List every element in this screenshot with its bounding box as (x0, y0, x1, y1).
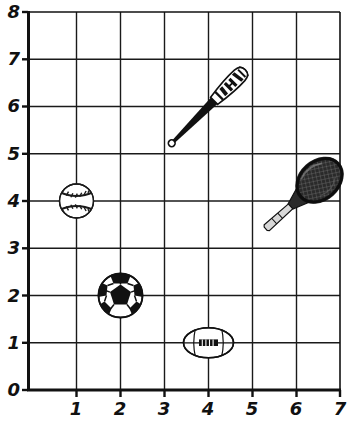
x-tick-label-2: 2 (110, 400, 130, 418)
x-tick-label-5: 5 (242, 400, 262, 418)
tennis-racket-icon (253, 149, 351, 242)
y-tick-label-5: 5 (0, 145, 20, 163)
coordinate-plot (0, 0, 354, 423)
y-tick-label-3: 3 (0, 239, 20, 257)
y-tick-label-1: 1 (0, 334, 20, 352)
baseball-bat-icon (164, 64, 251, 151)
y-tick-label-8: 8 (0, 3, 20, 21)
x-tick-label-3: 3 (154, 400, 174, 418)
football-icon (184, 328, 234, 358)
baseball-icon (60, 184, 94, 218)
y-tick-label-2: 2 (0, 287, 20, 305)
y-tick-label-0: 0 (0, 381, 20, 399)
x-tick-label-1: 1 (66, 400, 86, 418)
x-tick-label-6: 6 (286, 400, 306, 418)
y-tick-label-7: 7 (0, 50, 20, 68)
x-tick-label-4: 4 (198, 400, 218, 418)
y-tick-label-4: 4 (0, 192, 20, 210)
x-tick-label-7: 7 (330, 400, 350, 418)
coordinate-grid-worksheet: 8 7 6 5 4 3 2 1 0 1 2 3 4 5 6 7 (0, 0, 354, 423)
y-tick-label-6: 6 (0, 97, 20, 115)
